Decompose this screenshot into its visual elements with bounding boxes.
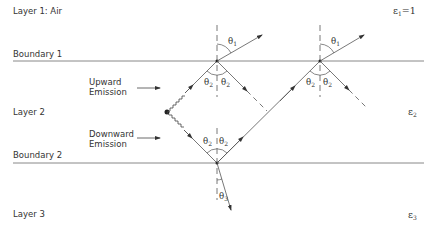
theta3-arc [217,179,222,180]
upward-ray-arrow [185,85,193,93]
theta2-label-left-b: θ2 [221,77,230,88]
theta2-label-right-a: θ2 [306,77,315,88]
theta1-label-right: θ1 [331,36,340,47]
theta2-label-bottom-b: θ2 [219,136,228,147]
downward-emission-wave [167,112,184,127]
epsilon-3-label: ε3 [408,209,417,221]
theta1-label-left: θ1 [228,36,237,47]
theta2-label-right-b: θ2 [323,77,332,88]
reflected-ray-up-arrow2 [280,86,295,101]
transmitted-ray-bottom [217,163,231,210]
theta3-label: θ3 [219,191,228,202]
reflected-ray-left-dashed [247,91,267,111]
boundary2-label: Boundary 2 [13,150,62,160]
upward-emission-wave [167,96,185,112]
epsilon-2-label: ε2 [408,106,417,118]
emission-reflection-diagram: Layer 1: Air Layer 2 Layer 3 ε1=1 ε2 ε3 … [0,0,431,226]
boundary1-label: Boundary 1 [13,49,62,59]
downward-ray-arrow [184,130,192,138]
theta2-arc-left [207,71,227,75]
transmitted-ray-left [217,35,262,61]
transmitted-ray-right [320,35,364,61]
theta2-label-bottom-a: θ2 [203,136,212,147]
layer3-label: Layer 3 [13,209,45,219]
theta2-label-left-a: θ2 [204,77,213,88]
reflected-ray-right-dashed [349,90,368,109]
epsilon-1-label: ε1=1 [393,5,416,17]
downward-emission-label: DownwardEmission [89,129,134,149]
layer1-label: Layer 1: Air [13,6,63,16]
layer2-label: Layer 2 [13,107,45,117]
theta2-arc-right [310,71,330,75]
upward-emission-label: UpwardEmission [89,77,127,97]
